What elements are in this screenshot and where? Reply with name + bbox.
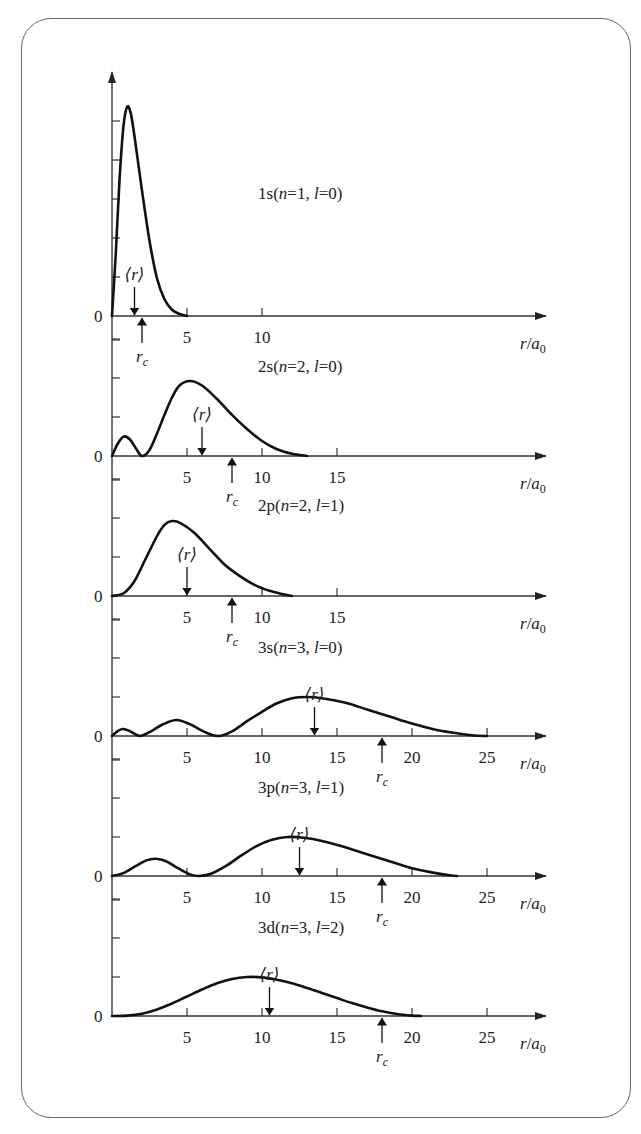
x-axis-label: r/a0 — [520, 1034, 546, 1056]
x-tick-label: 5 — [183, 328, 192, 347]
y-zero-label: 0 — [94, 587, 103, 606]
distribution-curve-1s — [112, 106, 187, 316]
orbital-label: 3p(n=3, l=1) — [258, 778, 344, 797]
y-zero-label: 0 — [94, 447, 103, 466]
y-zero-label: 0 — [94, 867, 103, 886]
x-tick-label: 10 — [254, 608, 271, 627]
x-tick-label: 15 — [329, 468, 346, 487]
x-tick-label: 5 — [183, 1028, 192, 1047]
classical-r-label: rc — [376, 767, 389, 789]
x-tick-label: 5 — [183, 468, 192, 487]
x-tick-label: 15 — [329, 888, 346, 907]
x-axis-label: r/a0 — [520, 894, 546, 916]
mean-r-label: ⟨r⟩ — [125, 265, 145, 284]
classical-r-label: rc — [376, 1047, 389, 1069]
x-tick-label: 15 — [329, 1028, 346, 1047]
y-zero-label: 0 — [94, 1007, 103, 1026]
x-tick-label: 5 — [183, 608, 192, 627]
classical-r-label: rc — [226, 487, 239, 509]
classical-r-label: rc — [376, 907, 389, 929]
x-tick-label: 20 — [404, 888, 421, 907]
x-tick-label: 10 — [254, 888, 271, 907]
panel-1s: 0510r/a01s(n=1, l=0)⟨r⟩rc — [94, 106, 546, 369]
x-tick-label: 5 — [183, 748, 192, 767]
orbital-label: 3s(n=3, l=0) — [258, 638, 342, 657]
x-tick-label: 15 — [329, 748, 346, 767]
x-axis-label: r/a0 — [520, 754, 546, 776]
mean-r-label: ⟨r⟩ — [177, 545, 197, 564]
orbital-label: 3d(n=3, l=2) — [258, 918, 344, 937]
panels: 0510r/a01s(n=1, l=0)⟨r⟩rc051015r/a02s(n=… — [94, 106, 546, 1069]
classical-r-label: rc — [226, 627, 239, 649]
x-tick-label: 10 — [254, 328, 271, 347]
mean-r-label: ⟨r⟩ — [305, 685, 325, 704]
x-tick-label: 10 — [254, 1028, 271, 1047]
distribution-curve-3s — [112, 697, 487, 736]
x-tick-label: 25 — [479, 748, 496, 767]
panel-2p: 051015r/a02p(n=2, l=1)⟨r⟩rc — [94, 479, 546, 649]
orbital-label: 1s(n=1, l=0) — [258, 184, 342, 203]
x-tick-label: 10 — [254, 468, 271, 487]
panel-3p: 0510152025r/a03p(n=3, l=1)⟨r⟩rc — [94, 759, 546, 929]
panel-3s: 0510152025r/a03s(n=3, l=0)⟨r⟩rc — [94, 619, 546, 789]
orbital-label: 2p(n=2, l=1) — [258, 496, 344, 515]
mean-r-label: ⟨r⟩ — [260, 965, 280, 984]
y-zero-label: 0 — [94, 727, 103, 746]
x-tick-label: 10 — [254, 748, 271, 767]
x-tick-label: 5 — [183, 888, 192, 907]
distribution-curve-3p — [112, 837, 457, 876]
orbital-label: 2s(n=2, l=0) — [258, 357, 342, 376]
x-axis-label: r/a0 — [520, 474, 546, 496]
panel-2s: 051015r/a02s(n=2, l=0)⟨r⟩rc — [94, 339, 546, 509]
x-axis-label: r/a0 — [520, 614, 546, 636]
x-tick-label: 20 — [404, 748, 421, 767]
y-zero-label: 0 — [94, 307, 103, 326]
mean-r-label: ⟨r⟩ — [290, 825, 310, 844]
x-tick-label: 20 — [404, 1028, 421, 1047]
x-tick-label: 25 — [479, 888, 496, 907]
classical-r-label: rc — [136, 347, 149, 369]
x-tick-label: 25 — [479, 1028, 496, 1047]
mean-r-label: ⟨r⟩ — [192, 405, 212, 424]
x-axis-label: r/a0 — [520, 334, 546, 356]
panel-3d: 0510152025r/a03d(n=3, l=2)⟨r⟩rc — [94, 899, 546, 1069]
distribution-curve-2p — [112, 521, 292, 596]
x-tick-label: 15 — [329, 608, 346, 627]
radial-distribution-chart: 0510r/a01s(n=1, l=0)⟨r⟩rc051015r/a02s(n=… — [0, 0, 641, 1134]
